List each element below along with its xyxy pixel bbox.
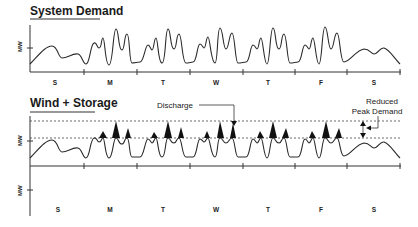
bottom-day-labels: S M T W T F S [56, 206, 377, 213]
discharge-peaks [99, 121, 342, 138]
day-label: W [213, 206, 220, 213]
discharge-label: Discharge [157, 101, 194, 110]
arrow-up-icon [360, 121, 366, 126]
system-demand-curve [30, 27, 400, 65]
day-label: S [372, 206, 377, 213]
day-label: S [372, 79, 377, 86]
system-demand-panel: System Demand MW S M T W T F S [17, 4, 401, 86]
y-axis-label-upper: MW [17, 135, 23, 146]
wind-storage-title: Wind + Storage [30, 96, 118, 110]
day-label: T [266, 79, 270, 86]
day-label: W [213, 79, 220, 86]
wind-storage-panel: Wind + Storage MW MW [17, 96, 402, 216]
day-label: S [53, 79, 58, 86]
day-label: T [266, 206, 270, 213]
y-axis-label-lower: MW [17, 185, 23, 196]
day-label: M [107, 206, 112, 213]
arrow-left-icon [366, 126, 371, 131]
arrow-down-icon [231, 121, 237, 126]
net-demand-curve [30, 138, 400, 158]
day-label: T [161, 79, 165, 86]
arrow-down-icon [360, 133, 366, 138]
discharge-annotation: Discharge [157, 101, 237, 126]
system-demand-title: System Demand [30, 4, 123, 18]
day-label: F [319, 206, 323, 213]
reduced-peak-annotation: Reduced Peak Demand [352, 97, 403, 138]
day-label: S [56, 206, 61, 213]
day-label: T [161, 206, 165, 213]
day-label: M [107, 79, 112, 86]
day-label: F [319, 79, 323, 86]
top-day-labels: S M T W T F S [53, 79, 377, 86]
reduced-label-line2: Peak Demand [352, 107, 403, 116]
demand-diagram: System Demand MW S M T W T F S Wind + St… [0, 0, 418, 227]
reduced-label-line1: Reduced [366, 97, 398, 106]
y-axis-label: MW [17, 41, 23, 52]
